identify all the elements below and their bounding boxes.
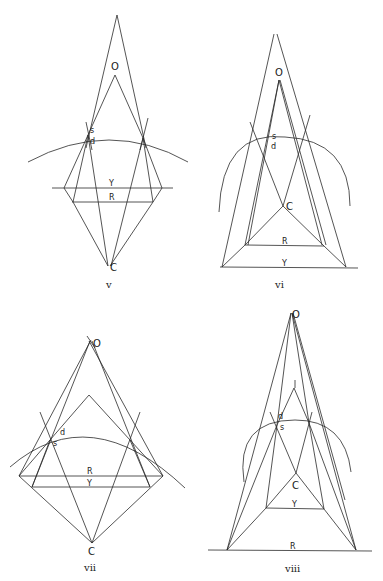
label-d: d bbox=[60, 428, 65, 437]
label-r: R bbox=[290, 542, 296, 551]
figure-caption: vi bbox=[274, 279, 284, 290]
label-y: Y bbox=[291, 500, 297, 509]
figure-caption: viii bbox=[284, 563, 300, 574]
label-d: d bbox=[278, 412, 283, 421]
label-y: Y bbox=[281, 259, 287, 268]
geometric-diagrams-page: O s d Y R C v O s d C R bbox=[0, 0, 383, 581]
label-s: s bbox=[53, 439, 57, 448]
label-o: O bbox=[111, 61, 119, 72]
label-c: C bbox=[286, 201, 293, 212]
label-c: C bbox=[292, 480, 299, 491]
label-y: Y bbox=[108, 179, 114, 188]
figure-vi: O s d C R Y vi bbox=[219, 34, 358, 290]
label-o: O bbox=[93, 338, 101, 349]
label-d: d bbox=[271, 142, 276, 151]
diagram-canvas: O s d Y R C v O s d C R bbox=[0, 0, 383, 581]
figure-v: O s d Y R C v bbox=[28, 15, 188, 290]
label-s: s bbox=[90, 126, 94, 135]
figure-caption: vii bbox=[83, 562, 96, 573]
label-c: C bbox=[110, 262, 117, 273]
label-c: C bbox=[88, 546, 95, 557]
figure-vii: O d s R Y C vii bbox=[10, 336, 185, 573]
label-s: s bbox=[272, 132, 276, 141]
label-y: Y bbox=[86, 479, 92, 488]
label-d: d bbox=[90, 137, 95, 146]
figure-caption: v bbox=[105, 279, 112, 290]
label-r: R bbox=[282, 237, 288, 246]
label-r: R bbox=[109, 193, 115, 202]
label-r: R bbox=[87, 467, 93, 476]
label-o: O bbox=[292, 309, 300, 320]
label-s: s bbox=[280, 423, 284, 432]
figure-viii: O d s C Y R viii bbox=[208, 309, 372, 574]
label-o: O bbox=[275, 67, 283, 78]
